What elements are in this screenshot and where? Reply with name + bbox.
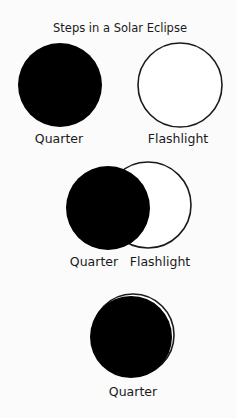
step2-quarter-disk <box>66 166 150 250</box>
step1-quarter-disk <box>18 43 102 127</box>
step1-flashlight-label: Flashlight <box>148 131 208 146</box>
step1-flashlight-circle <box>138 43 222 127</box>
eclipse-diagram <box>0 0 237 418</box>
diagram-title: Steps in a Solar Eclipse <box>53 21 187 35</box>
step2-quarter-label: Quarter <box>70 254 118 269</box>
step3-quarter-label: Quarter <box>109 384 157 399</box>
step3-quarter-disk <box>90 296 172 378</box>
step1-quarter-label: Quarter <box>35 131 83 146</box>
step2-flashlight-label: Flashlight <box>130 254 190 269</box>
